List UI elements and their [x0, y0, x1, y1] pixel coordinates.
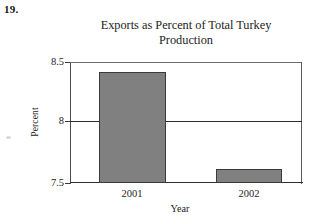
x-axis-title: Year: [155, 203, 205, 215]
plot-border-top: [70, 62, 302, 63]
bar-chart-figure: Exports as Percent of Total Turkey Produ…: [0, 0, 316, 224]
chart-title: Exports as Percent of Total Turkey Produ…: [62, 18, 310, 48]
y-axis-title: Percent: [28, 95, 42, 155]
y-tick-label-7-5: 7.5: [40, 178, 64, 188]
scan-artifact: [6, 136, 11, 139]
bar-2001: [99, 72, 166, 183]
y-tick-label-8-5: 8.5: [40, 57, 64, 67]
bar-2002: [216, 169, 282, 183]
y-tick-label-8: 8: [40, 116, 64, 126]
y-tick-mark-7-5: [65, 183, 70, 184]
x-tick-label-2001: 2001: [112, 188, 152, 200]
plot-area: [70, 62, 302, 183]
plot-border-right: [301, 62, 302, 184]
y-axis-title-text: Percent: [30, 94, 40, 150]
x-tick-label-2002: 2002: [229, 188, 269, 200]
